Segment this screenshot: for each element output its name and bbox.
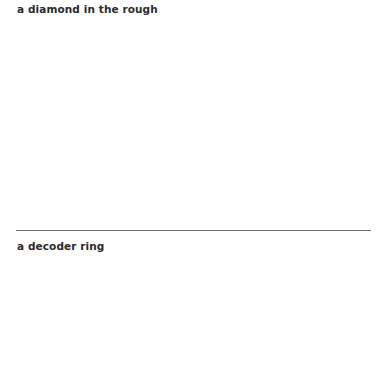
panel-diamond: a diamond in the rough (16, 0, 370, 230)
panel-caption: a diamond in the rough (17, 3, 158, 15)
panel-decoder-ring: a decoder ring (16, 231, 370, 369)
panel-caption: a decoder ring (17, 240, 104, 252)
